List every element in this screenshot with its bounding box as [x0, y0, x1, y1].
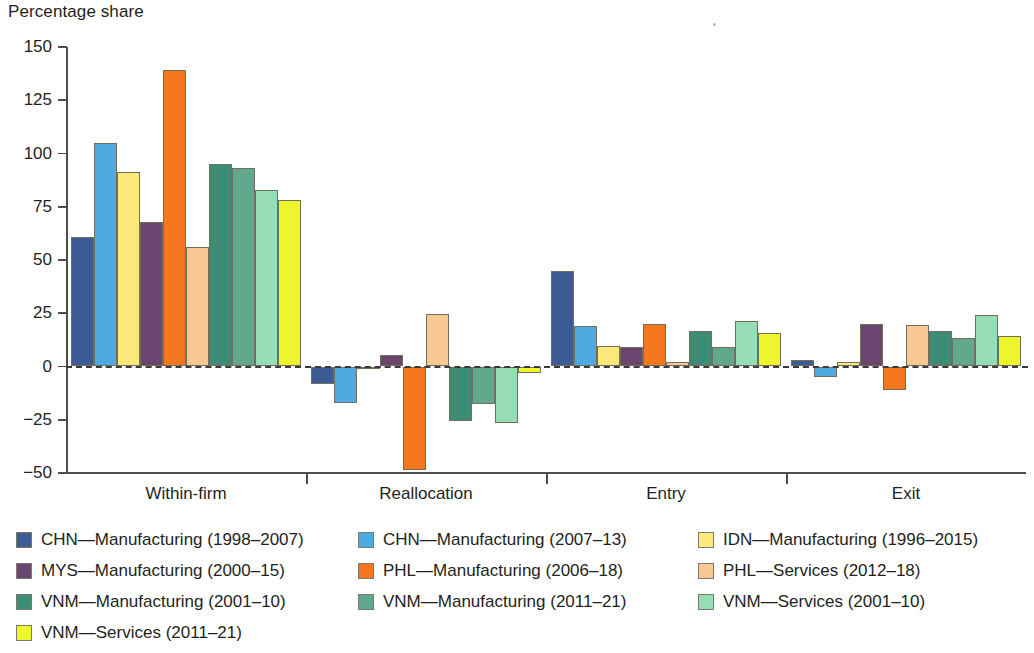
x-axis-group-label: Within-firm: [145, 484, 226, 504]
bar: [94, 143, 117, 367]
y-tick-label: 100: [0, 144, 52, 164]
bar: [232, 168, 255, 366]
bar: [472, 367, 495, 404]
y-axis-title: Percentage share: [8, 2, 144, 22]
legend-swatch-icon: [358, 563, 374, 579]
bar: [255, 190, 278, 367]
bar: [403, 367, 426, 470]
bar: [689, 331, 712, 366]
legend-swatch-icon: [358, 594, 374, 610]
bar: [551, 271, 574, 367]
bar: [117, 172, 140, 367]
y-tick-label: 25: [0, 303, 52, 323]
y-tick-label: 75: [0, 197, 52, 217]
bar: [449, 367, 472, 421]
legend-label: CHN—Manufacturing (2007–13): [383, 531, 627, 548]
bar: [426, 314, 449, 366]
bar: [620, 347, 643, 366]
legend-label: MYS—Manufacturing (2000–15): [41, 562, 285, 579]
x-axis-group-divider: [786, 472, 788, 484]
legend-label: VNM—Services (2011–21): [41, 624, 242, 641]
legend-label: VNM—Manufacturing (2011–21): [383, 593, 626, 610]
bar: [952, 338, 975, 367]
legend-label: VNM—Services (2001–10): [723, 593, 925, 610]
legend-label: PHL—Manufacturing (2006–18): [383, 562, 623, 579]
chart-legend: CHN—Manufacturing (1998–2007)CHN—Manufac…: [10, 524, 1034, 648]
bar: [311, 367, 334, 384]
bar: [186, 247, 209, 366]
bar: [998, 336, 1021, 367]
legend-item[interactable]: VNM—Services (2001–10): [698, 586, 925, 617]
y-tick-label: 125: [0, 90, 52, 110]
legend-swatch-icon: [698, 594, 714, 610]
bar: [712, 347, 735, 366]
bar: [278, 200, 301, 366]
legend-item[interactable]: CHN—Manufacturing (1998–2007): [16, 524, 304, 555]
x-axis-group-label: Exit: [892, 484, 920, 504]
bar: [929, 331, 952, 366]
legend-row: CHN—Manufacturing (1998–2007)CHN—Manufac…: [10, 524, 1034, 555]
bar: [380, 355, 403, 367]
bar: [71, 237, 94, 367]
x-axis-group-divider: [546, 472, 548, 484]
legend-swatch-icon: [698, 563, 714, 579]
y-tick-label: −25: [0, 410, 52, 430]
bar: [140, 222, 163, 367]
bar: [814, 367, 837, 378]
legend-item[interactable]: VNM—Manufacturing (2001–10): [16, 586, 286, 617]
legend-swatch-icon: [16, 594, 32, 610]
bar: [209, 164, 232, 366]
y-tick-label: 150: [0, 37, 52, 57]
bar: [758, 333, 781, 366]
bar: [975, 315, 998, 366]
legend-swatch-icon: [16, 532, 32, 548]
legend-swatch-icon: [698, 532, 714, 548]
legend-item[interactable]: PHL—Manufacturing (2006–18): [358, 555, 623, 586]
bar: [643, 324, 666, 367]
x-axis-group-divider: [306, 472, 308, 484]
legend-row: VNM—Services (2011–21): [10, 617, 1034, 648]
bar: [906, 325, 929, 367]
zero-baseline: [66, 366, 1028, 368]
legend-swatch-icon: [16, 563, 32, 579]
y-tick-label: 0: [0, 357, 52, 377]
bar: [597, 346, 620, 366]
legend-item[interactable]: CHN—Manufacturing (2007–13): [358, 524, 627, 555]
bar: [574, 326, 597, 366]
stray-speck: [713, 23, 716, 26]
legend-item[interactable]: PHL—Services (2012–18): [698, 555, 920, 586]
bar: [883, 367, 906, 390]
legend-row: MYS—Manufacturing (2000–15)PHL—Manufactu…: [10, 555, 1034, 586]
legend-swatch-icon: [358, 532, 374, 548]
legend-item[interactable]: VNM—Services (2011–21): [16, 617, 242, 648]
bar-chart-figure: Percentage share 1501251007550250−25−50 …: [0, 0, 1034, 653]
legend-label: IDN—Manufacturing (1996–2015): [723, 531, 978, 548]
legend-label: CHN—Manufacturing (1998–2007): [41, 531, 304, 548]
x-axis-group-label: Entry: [646, 484, 686, 504]
bar: [334, 367, 357, 403]
legend-label: PHL—Services (2012–18): [723, 562, 920, 579]
bar: [735, 321, 758, 367]
legend-item[interactable]: IDN—Manufacturing (1996–2015): [698, 524, 978, 555]
y-tick-label: 50: [0, 250, 52, 270]
bar: [495, 367, 518, 423]
bar: [860, 324, 883, 367]
legend-item[interactable]: VNM—Manufacturing (2011–21): [358, 586, 626, 617]
bar: [163, 70, 186, 366]
plot-area: [66, 47, 1026, 473]
legend-row: VNM—Manufacturing (2001–10)VNM—Manufactu…: [10, 586, 1034, 617]
legend-item[interactable]: MYS—Manufacturing (2000–15): [16, 555, 285, 586]
x-axis-group-label: Reallocation: [379, 484, 473, 504]
y-tick-label: −50: [0, 463, 52, 483]
legend-label: VNM—Manufacturing (2001–10): [41, 593, 286, 610]
legend-swatch-icon: [16, 625, 32, 641]
